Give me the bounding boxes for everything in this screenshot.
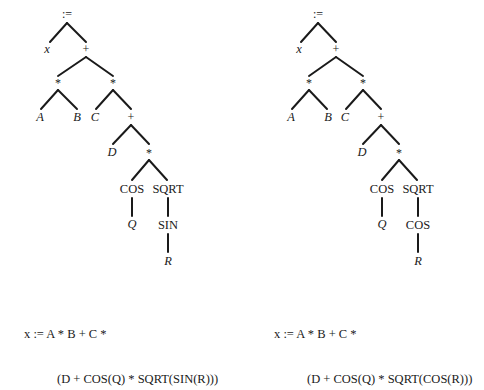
right-formula: x := A * B + C * (D + COS(Q) * SQRT(COS(…: [274, 297, 472, 390]
node-x: x: [43, 42, 50, 56]
node-A: A: [35, 110, 44, 124]
node-multiply: *: [360, 76, 366, 90]
right-expression-tree: := x + * * A B C + D * COS SQRT Q COS R: [286, 7, 434, 268]
node-plus: +: [378, 110, 385, 124]
node-assign: :=: [313, 7, 323, 21]
node-D: D: [106, 145, 116, 159]
node-R: R: [413, 254, 422, 268]
node-B: B: [73, 110, 81, 124]
node-cos-inner: COS: [406, 218, 430, 232]
node-multiply: *: [306, 76, 312, 90]
left-formula: x := A * B + C * (D + COS(Q) * SQRT(SIN(…: [24, 297, 218, 390]
node-R: R: [163, 254, 172, 268]
formula-line-1: x := A * B + C *: [274, 327, 472, 342]
node-multiply: *: [146, 146, 152, 160]
node-C: C: [341, 110, 350, 124]
node-D: D: [356, 145, 366, 159]
node-Q: Q: [377, 217, 386, 231]
node-plus: +: [83, 42, 90, 56]
node-assign: :=: [62, 7, 72, 21]
node-cos: COS: [370, 182, 394, 196]
node-multiply: *: [110, 76, 116, 90]
node-multiply: *: [396, 146, 402, 160]
node-Q: Q: [127, 217, 136, 231]
node-multiply: *: [55, 76, 61, 90]
node-plus: +: [333, 42, 340, 56]
node-x: x: [295, 42, 302, 56]
node-B: B: [324, 110, 332, 124]
left-expression-tree: := x + * * A B C + D * COS SQRT Q SIN R: [35, 7, 184, 268]
node-plus: +: [128, 110, 135, 124]
node-C: C: [91, 110, 100, 124]
formula-line-2: (D + COS(Q) * SQRT(SIN(R))): [24, 372, 218, 387]
node-sin: SIN: [158, 218, 178, 232]
node-cos: COS: [120, 182, 144, 196]
node-sqrt: SQRT: [402, 182, 434, 196]
node-sqrt: SQRT: [152, 182, 184, 196]
formula-line-2: (D + COS(Q) * SQRT(COS(R))): [274, 372, 472, 387]
formula-line-1: x := A * B + C *: [24, 327, 218, 342]
node-A: A: [286, 110, 295, 124]
